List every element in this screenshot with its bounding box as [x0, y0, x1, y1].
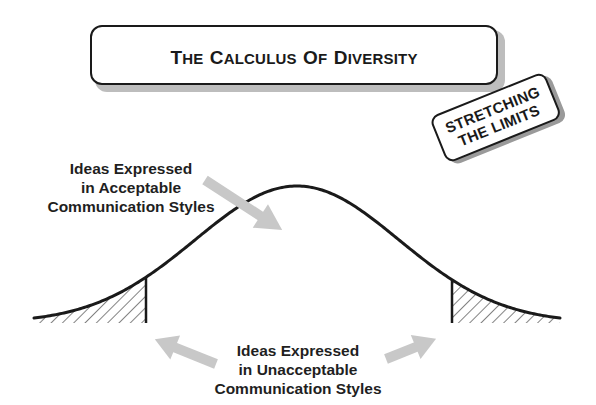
label-line: Communication Styles [36, 197, 226, 216]
label-line: Communication Styles [196, 379, 400, 398]
label-line: in Unacceptable [196, 360, 400, 379]
unacceptable-styles-label: Ideas Expressed in Unacceptable Communic… [196, 341, 400, 398]
acceptable-styles-label: Ideas Expressed in Acceptable Communicat… [36, 159, 226, 216]
label-line: Ideas Expressed [196, 341, 400, 360]
label-line: in Acceptable [36, 178, 226, 197]
label-line: Ideas Expressed [36, 159, 226, 178]
